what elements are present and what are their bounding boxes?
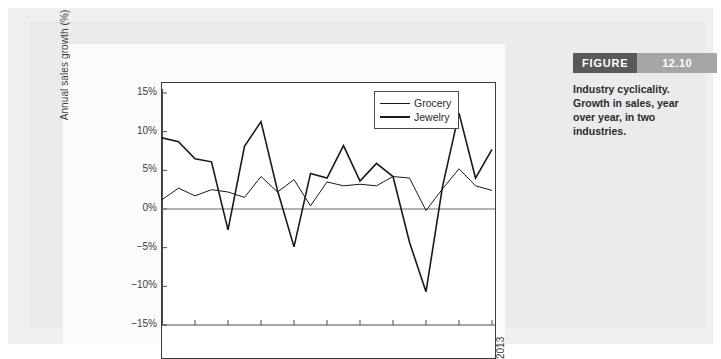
legend-swatch-jewelry — [380, 116, 410, 118]
figure-tag-number: 12.10 — [637, 53, 717, 73]
legend-label-grocery: Grocery — [414, 98, 451, 109]
legend-item-jewelry: Jewelry — [380, 110, 451, 124]
figure-caption-block: FIGURE 12.10 Industry cyclicality. Growt… — [573, 53, 718, 138]
figure-tag-label: FIGURE — [573, 53, 637, 73]
series-line-jewelry — [162, 113, 492, 292]
x-tick-label: 2013 — [496, 337, 506, 359]
legend-item-grocery: Grocery — [380, 96, 451, 110]
chart-legend: Grocery Jewelry — [374, 91, 459, 129]
figure-caption-text: Industry cyclicality. Growth in sales, y… — [573, 82, 683, 138]
legend-swatch-grocery — [380, 103, 410, 104]
page-panel: Annual sales growth (%) 15%10%5%0%−5%−10… — [8, 8, 713, 344]
figure-chart-card: Annual sales growth (%) 15%10%5%0%−5%−10… — [63, 44, 505, 344]
page-panel-inner: Annual sales growth (%) 15%10%5%0%−5%−10… — [30, 22, 706, 328]
figure-tag: FIGURE 12.10 — [573, 53, 717, 73]
legend-label-jewelry: Jewelry — [414, 112, 450, 123]
